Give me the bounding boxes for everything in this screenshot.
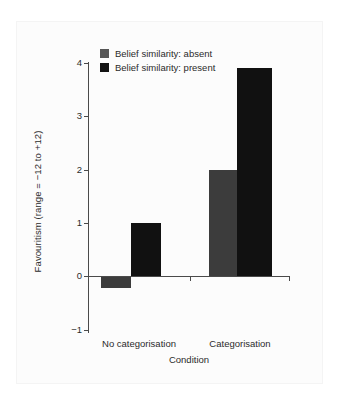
legend-item-present: Belief similarity: present xyxy=(100,61,215,74)
x-tick-mark-center xyxy=(190,277,191,281)
legend-label-absent: Belief similarity: absent xyxy=(115,48,212,59)
x-tick-mark-left xyxy=(88,277,89,281)
bar-categorisation-absent xyxy=(209,170,237,276)
legend-item-absent: Belief similarity: absent xyxy=(100,47,215,60)
legend-swatch-present-icon xyxy=(100,63,109,72)
y-axis-line xyxy=(88,62,89,333)
bar-categorisation-present xyxy=(237,68,272,276)
chart-legend: Belief similarity: absent Belief similar… xyxy=(100,47,215,75)
y-tick-label-minus-1: −1 xyxy=(56,325,82,335)
bar-no-categorisation-absent xyxy=(101,277,131,288)
figure-container: 4 3 2 1 0 −1 Favouritism (range = −12 to… xyxy=(0,0,340,412)
legend-label-present: Belief similarity: present xyxy=(115,62,215,73)
x-tick-label-no-categorisation: No categorisation xyxy=(88,338,190,349)
y-tick-mark-2 xyxy=(84,170,88,171)
y-tick-label-0: 0 xyxy=(56,271,82,281)
x-axis-title: Condition xyxy=(88,354,290,365)
x-tick-label-categorisation: Categorisation xyxy=(190,338,290,349)
y-tick-mark-4 xyxy=(84,63,88,64)
y-tick-mark-m1 xyxy=(84,330,88,331)
bar-no-categorisation-present xyxy=(131,223,161,276)
y-tick-label-1: 1 xyxy=(56,218,82,228)
y-tick-mark-3 xyxy=(84,116,88,117)
y-axis-title: Favouritism (range = −12 to +12) xyxy=(32,102,43,302)
x-tick-mark-right xyxy=(289,277,290,281)
legend-swatch-absent-icon xyxy=(100,49,109,58)
y-tick-label-4: 4 xyxy=(56,58,82,68)
y-tick-mark-1 xyxy=(84,223,88,224)
chart-plot-area: 4 3 2 1 0 −1 Favouritism (range = −12 to… xyxy=(0,0,340,412)
y-tick-label-2: 2 xyxy=(56,165,82,175)
y-tick-label-3: 3 xyxy=(56,111,82,121)
